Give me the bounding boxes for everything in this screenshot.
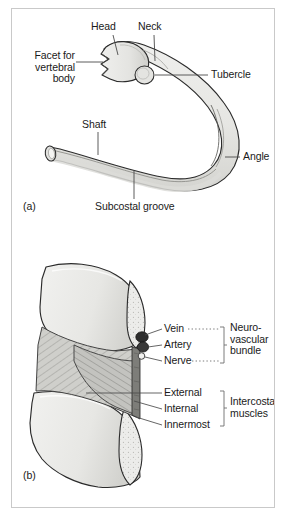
label-facet-for-vertebral-body: Facet for vertebral body: [12, 50, 75, 85]
leader-artery: [148, 345, 162, 347]
bracket-intercostal: [220, 391, 227, 426]
panel-a-rib-bone: Head Neck Facet for vertebral body Tuber…: [12, 9, 274, 241]
label-angle: Angle: [243, 151, 269, 163]
label-tubercle: Tubercle: [211, 69, 251, 81]
panel-tag-a: (a): [23, 200, 36, 212]
leader-vein: [145, 329, 162, 335]
leader-nerve: [145, 357, 162, 361]
label-head: Head: [91, 21, 116, 33]
label-innermost: Innermost: [164, 419, 210, 431]
nerve-shape: [138, 353, 145, 360]
label-subcostal-groove: Subcostal groove: [95, 201, 175, 213]
label-neck: Neck: [138, 21, 162, 33]
panel-tag-b: (b): [23, 469, 36, 481]
label-nerve: Nerve: [164, 355, 192, 367]
rib-tubercle-shape: [135, 66, 154, 84]
label-shaft: Shaft: [82, 119, 106, 131]
lower-rib-cut-end: [119, 409, 142, 485]
artery-shape: [137, 342, 148, 352]
vein-shape: [136, 332, 148, 342]
label-vein: Vein: [164, 323, 184, 335]
figure-frame: Head Neck Facet for vertebral body Tuber…: [11, 8, 275, 508]
panel-b-intercostal-space: Vein Artery Nerve External Internal Inne…: [12, 241, 274, 507]
leader-innermost: [136, 417, 162, 425]
bracket-label-neurovascular-bundle: Neuro- vascular bundle: [230, 322, 268, 357]
bracket-neurovascular: [220, 327, 227, 363]
label-external: External: [164, 387, 202, 399]
label-artery: Artery: [164, 339, 191, 351]
label-internal: Internal: [164, 403, 198, 415]
bracket-label-intercostal-muscles: Intercostal muscles: [230, 396, 275, 419]
